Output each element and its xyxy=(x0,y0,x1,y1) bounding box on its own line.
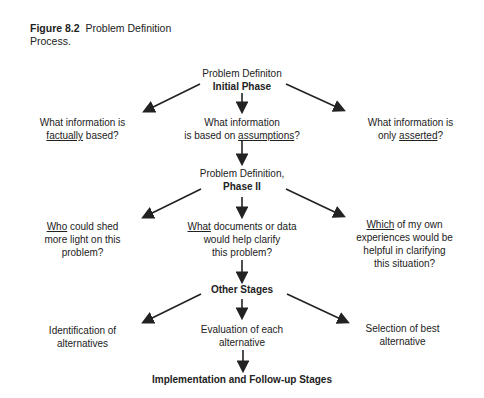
stage-mid-line1: Evaluation of each xyxy=(177,323,307,336)
stage-left: Identification of alternatives xyxy=(20,324,145,350)
stage-mid: Evaluation of each alternative xyxy=(177,323,307,349)
stage-right: Selection of best alternative xyxy=(340,322,465,348)
q2-mid-rest: documents or data xyxy=(211,221,297,232)
q2-right-line4: this situation? xyxy=(342,257,467,270)
q2-mid-underlined: What xyxy=(188,221,211,232)
q1-left-underlined: factually xyxy=(46,130,83,141)
q2-mid-line3: this problem? xyxy=(167,246,317,259)
other-stages-node: Other Stages xyxy=(192,283,292,296)
stage-mid-line2: alternative xyxy=(177,336,307,349)
q2-left-line3: problem? xyxy=(20,246,145,259)
q1-right-post: ? xyxy=(437,130,443,141)
q2-right-rest: of my own xyxy=(394,219,442,230)
q1-mid-pre: is based on xyxy=(184,130,238,141)
q2-left-rest: could shed xyxy=(67,221,118,232)
q1-mid-post: ? xyxy=(294,130,300,141)
stage-right-line2: alternative xyxy=(340,335,465,348)
q1-mid-underlined: assumptions xyxy=(238,130,294,141)
phase2-node: Problem Definition, Phase II xyxy=(192,167,292,193)
phase2-line1: Problem Definition, xyxy=(192,167,292,180)
q1-mid: What information is based on assumptions… xyxy=(167,116,317,142)
stage-left-line1: Identification of xyxy=(20,324,145,337)
phase1-line2: Initial Phase xyxy=(192,80,292,93)
final-stage-node: Implementation and Follow-up Stages xyxy=(122,373,362,386)
stage-left-line2: alternatives xyxy=(20,337,145,350)
q2-right-line2: experiences would be xyxy=(342,231,467,244)
q1-right: What information is only asserted? xyxy=(348,116,473,142)
q2-left: Who could shed more light on this proble… xyxy=(20,220,145,259)
q2-mid: What documents or data would help clarif… xyxy=(167,220,317,259)
q1-left-rest: based? xyxy=(83,130,119,141)
q2-mid-line2: would help clarify xyxy=(167,233,317,246)
q1-right-underlined: asserted xyxy=(399,130,437,141)
q1-mid-line1: What information xyxy=(167,116,317,129)
q1-right-line1: What information is xyxy=(348,116,473,129)
q2-right-underlined: Which xyxy=(366,219,394,230)
stage-right-line1: Selection of best xyxy=(340,322,465,335)
q2-right-line3: helpful in clarifying xyxy=(342,244,467,257)
q2-left-line2: more light on this xyxy=(20,233,145,246)
q1-left: What information is factually based? xyxy=(20,116,145,142)
q1-right-pre: only xyxy=(378,130,399,141)
q2-left-underlined: Who xyxy=(47,221,68,232)
phase1-node: Problem Definiton Initial Phase xyxy=(192,67,292,93)
q2-right: Which of my own experiences would be hel… xyxy=(342,218,467,270)
q1-left-line1: What information is xyxy=(20,116,145,129)
phase1-line1: Problem Definiton xyxy=(192,67,292,80)
phase2-line2: Phase II xyxy=(192,180,292,193)
